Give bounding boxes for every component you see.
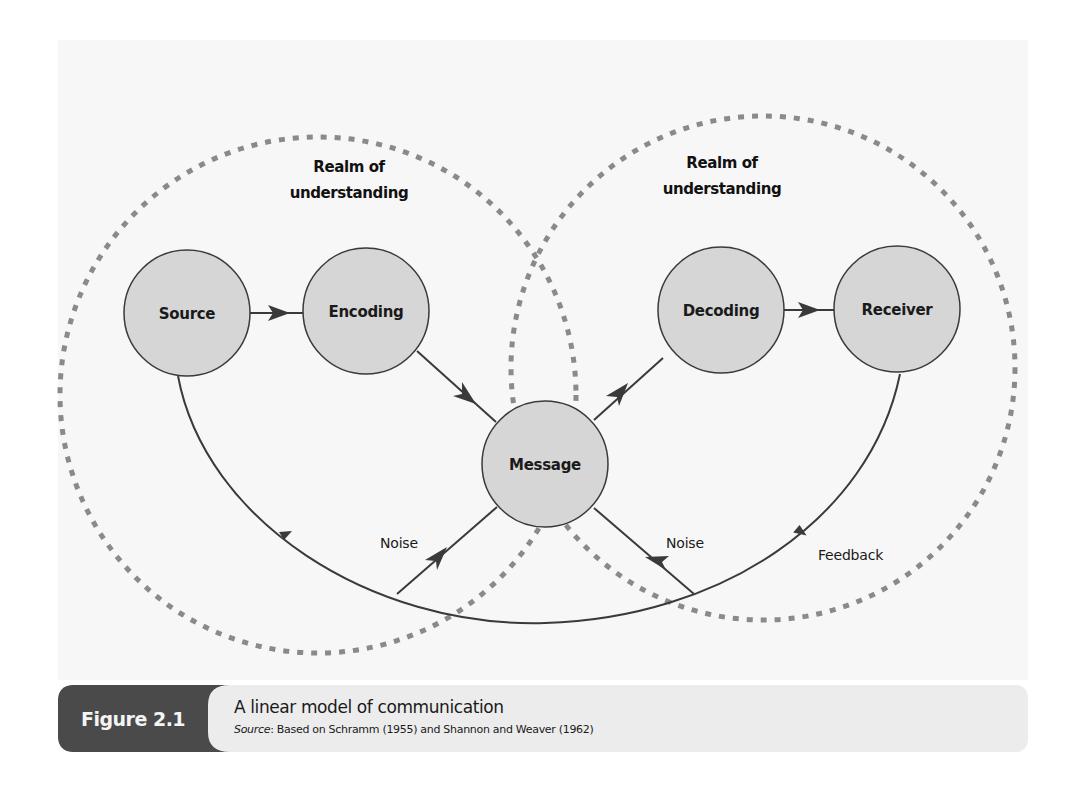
figure-source-prefix: Source bbox=[234, 723, 270, 736]
feedback-return-arrow-icon bbox=[279, 531, 292, 540]
node-source: Source bbox=[124, 250, 250, 376]
figure-source: Source: Based on Schramm (1955) and Shan… bbox=[234, 723, 594, 736]
feedback-label: Feedback bbox=[818, 547, 884, 563]
figure-title: A linear model of communication bbox=[234, 697, 504, 717]
realm-boundary-left bbox=[60, 137, 576, 653]
figure-source-text: : Based on Schramm (1955) and Shannon an… bbox=[270, 723, 593, 736]
arrow-noise-right-icon bbox=[645, 556, 669, 570]
node-encoding-label: Encoding bbox=[328, 303, 403, 321]
node-receiver-label: Receiver bbox=[862, 301, 934, 319]
node-receiver: Receiver bbox=[834, 246, 960, 372]
node-message-label: Message bbox=[509, 456, 581, 474]
communication-model-diagram: Source Encoding Message Decoding Receive… bbox=[0, 0, 1079, 790]
node-source-label: Source bbox=[159, 305, 216, 323]
realm-left-label-line2: understanding bbox=[290, 184, 409, 202]
node-decoding: Decoding bbox=[658, 247, 784, 373]
node-encoding: Encoding bbox=[303, 248, 429, 374]
realm-right-label-line2: understanding bbox=[663, 180, 782, 198]
figure-number-label: Figure 2.1 bbox=[58, 685, 208, 752]
caption-background bbox=[208, 685, 1028, 752]
edge-message-decoding bbox=[594, 358, 663, 420]
node-message: Message bbox=[482, 401, 608, 527]
realm-right-label-line1: Realm of bbox=[686, 154, 758, 172]
arrow-message-decoding-icon bbox=[606, 383, 628, 406]
node-decoding-label: Decoding bbox=[683, 302, 760, 320]
edge-noise-right bbox=[594, 508, 694, 594]
noise-left-label: Noise bbox=[380, 535, 418, 551]
figure-caption: Figure 2.1 A linear model of communicati… bbox=[58, 685, 1028, 752]
edge-encoding-message bbox=[417, 351, 496, 422]
realm-left-label-line1: Realm of bbox=[313, 158, 385, 176]
noise-right-label: Noise bbox=[666, 535, 704, 551]
